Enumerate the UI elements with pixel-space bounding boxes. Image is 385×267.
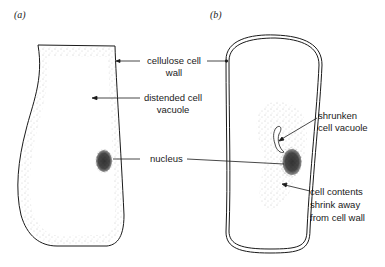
label-cell-wall-line2: wall — [140, 67, 208, 79]
label-cell-contents: cell contents shrink away from cell wall — [310, 185, 365, 224]
label-distended-vacuole-line2: vacuole — [140, 104, 206, 116]
label-shrunken-vacuole: shrunken cell vacuole — [318, 110, 368, 134]
label-cell-contents-line2: shrink away — [310, 198, 365, 211]
label-distended-vacuole: distended cell vacuole — [140, 92, 206, 116]
label-cell-wall-line1: cellulose cell — [140, 55, 208, 67]
label-cell-wall: cellulose cell wall — [140, 55, 208, 79]
cell-a — [18, 45, 124, 246]
panel-label-a: (a) — [14, 9, 26, 20]
label-distended-vacuole-line1: distended cell — [140, 92, 206, 104]
label-shrunken-vacuole-line2: cell vacuole — [318, 122, 368, 134]
label-cell-contents-line3: from cell wall — [310, 211, 365, 224]
label-cell-contents-line1: cell contents — [310, 185, 365, 198]
cell-b — [226, 35, 322, 253]
label-nucleus: nucleus — [150, 153, 183, 165]
label-shrunken-vacuole-line1: shrunken — [318, 110, 368, 122]
panel-label-b: (b) — [210, 9, 222, 20]
